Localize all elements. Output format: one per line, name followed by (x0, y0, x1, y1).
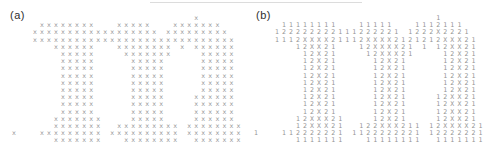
panel-b: (b) 1 11111111 11111 1112111 12222222211… (244, 0, 487, 166)
panel-a-character-grid: x xxxxxxxx xxxxx xxxxxxx xxxxxxxxxxxxxxx… (12, 15, 243, 145)
figure-canvas: (a) x xxxxxxxx xxxxx xxxxxxx xxxxxxxxxxx… (0, 0, 487, 166)
panel-a: (a) x xxxxxxxx xxxxx xxxxxxx xxxxxxxxxxx… (0, 0, 245, 166)
panel-b-character-grid: 1 11111111 11111 1112111 122222222111222… (254, 15, 485, 145)
